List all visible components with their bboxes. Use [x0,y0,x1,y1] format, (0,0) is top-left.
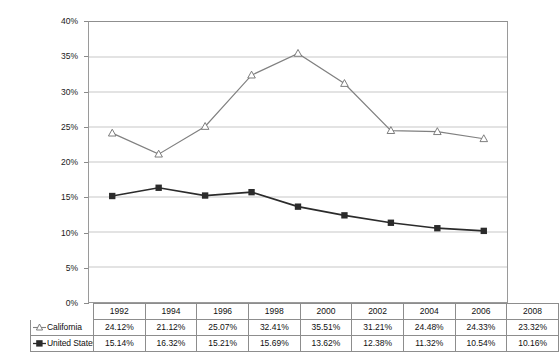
table-corner-cell [31,304,94,320]
table-cell-value: 10.16% [507,336,559,352]
table-cell-value: 10.54% [455,336,507,352]
y-axis-labels: 0%5%10%15%20%25%30%35%40% [40,0,84,311]
table-header-year: 2002 [352,304,404,320]
table-header-year: 2004 [403,304,455,320]
y-axis-tick-label: 20% [61,158,78,167]
open-triangle-marker-icon [33,323,46,332]
data-point-triangle [341,80,349,87]
table-cell-value: 15.14% [94,336,146,352]
data-point-square [202,192,208,198]
data-table-body: 199219941996199820002002200420062008 Cal… [31,304,559,352]
data-point-triangle [294,49,302,56]
table-header-year: 1996 [197,304,249,320]
data-point-square [341,212,347,218]
data-point-triangle [108,129,116,136]
series-california [108,49,487,157]
table-cell-value: 23.32% [507,320,559,336]
y-axis-tick-label: 25% [61,123,78,132]
y-axis-tick-label: 5% [66,264,78,273]
table-header-row: 199219941996199820002002200420062008 [31,304,559,320]
data-point-square [481,228,487,234]
data-point-square [155,185,161,191]
table-cell-value: 35.51% [300,320,352,336]
table-row: California 24.12%21.12%25.07%32.41%35.51… [31,320,559,336]
data-point-square [248,189,254,195]
table-cell-value: 16.32% [145,336,197,352]
data-point-square [109,193,115,199]
series-line [112,53,484,154]
table-cell-value: 11.32% [403,336,455,352]
table-cell-value: 12.38% [352,336,404,352]
legend-item-united-states: United States [31,336,94,352]
y-axis-tick-label: 15% [61,193,78,202]
series-united-states [109,185,487,234]
table-header-year: 1998 [248,304,300,320]
data-point-triangle [248,71,256,78]
legend-label-united-states: United States [47,339,94,348]
table-cell-value: 24.48% [403,320,455,336]
plot-area [88,21,508,303]
table-cell-value: 15.21% [197,336,249,352]
table-row: United States 15.14%16.32%15.21%15.69%13… [31,336,559,352]
table-header-year: 1992 [94,304,146,320]
data-point-square [388,220,394,226]
table-cell-value: 21.12% [145,320,197,336]
data-point-square [295,203,301,209]
table-header-year: 2006 [455,304,507,320]
table-cell-value: 24.33% [455,320,507,336]
table-header-year: 1994 [145,304,197,320]
legend-item-california: California [31,320,94,336]
legend-label-california: California [47,323,82,332]
table-cell-value: 15.69% [248,336,300,352]
data-table: 199219941996199820002002200420062008 Cal… [30,303,559,352]
table-cell-value: 24.12% [94,320,146,336]
plot-svg [89,22,507,302]
y-axis-tick-label: 35% [61,52,78,61]
y-axis-tick-label: 10% [61,228,78,237]
filled-square-marker-icon [33,339,46,348]
table-header-year: 2008 [507,304,559,320]
table-cell-value: 31.21% [352,320,404,336]
table-cell-value: 13.62% [300,336,352,352]
table-cell-value: 32.41% [248,320,300,336]
y-axis-tick-label: 40% [61,17,78,26]
gridlines [89,57,507,267]
data-point-square [434,225,440,231]
y-axis-tick-label: 30% [61,87,78,96]
table-header-year: 2000 [300,304,352,320]
table-cell-value: 25.07% [197,320,249,336]
